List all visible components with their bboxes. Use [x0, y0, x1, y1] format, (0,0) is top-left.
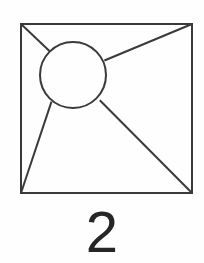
figure-caption: 2 — [0, 203, 204, 261]
figure-container: 2 — [0, 0, 204, 263]
inner-circle — [40, 42, 106, 108]
